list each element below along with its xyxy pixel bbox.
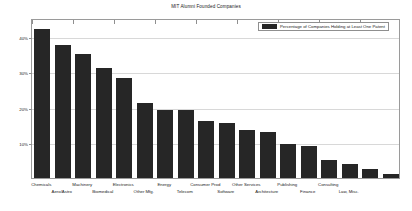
x-axis-label: Law, Misc. bbox=[339, 189, 359, 194]
bar bbox=[75, 54, 91, 178]
bar bbox=[55, 45, 71, 178]
x-axis-label: Chemicals bbox=[31, 182, 51, 187]
chart-container: MIT Alumni Founded Companies 10%20%30%40… bbox=[0, 0, 412, 211]
bar bbox=[321, 160, 337, 178]
y-axis-label: 20% bbox=[19, 106, 28, 111]
x-axis-label: Consulting bbox=[318, 182, 338, 187]
legend-swatch-icon bbox=[262, 24, 277, 29]
y-axis-label: 30% bbox=[19, 71, 28, 76]
bar bbox=[280, 144, 296, 178]
x-axis-label: Software bbox=[217, 189, 234, 194]
bar bbox=[301, 146, 317, 178]
chart-legend: Percentage of Companies Holding at Least… bbox=[258, 22, 389, 31]
plot-area: 10%20%30%40% bbox=[31, 19, 400, 179]
bar bbox=[157, 110, 173, 178]
x-axis-label: Electronics bbox=[113, 182, 134, 187]
bar bbox=[239, 130, 255, 178]
x-axis-label: Other Mfg. bbox=[134, 189, 154, 194]
bar bbox=[198, 121, 214, 178]
y-axis-label: 10% bbox=[19, 142, 28, 147]
x-axis-label: Biomedical bbox=[92, 189, 113, 194]
x-axis-label: Telecom bbox=[177, 189, 193, 194]
bar bbox=[362, 169, 378, 178]
bar bbox=[219, 123, 235, 178]
chart-title: MIT Alumni Founded Companies bbox=[0, 4, 412, 9]
bars-group bbox=[32, 20, 399, 178]
bar bbox=[383, 174, 399, 178]
bar bbox=[116, 78, 132, 178]
bar bbox=[342, 164, 358, 178]
bar bbox=[137, 103, 153, 178]
x-axis-label: Other Services bbox=[232, 182, 260, 187]
x-axis-label: Publishing bbox=[277, 182, 297, 187]
x-axis-label: Architecture bbox=[255, 189, 278, 194]
bar bbox=[34, 29, 50, 178]
bar bbox=[178, 110, 194, 178]
y-axis-label: 40% bbox=[19, 35, 28, 40]
x-axis-label: Consumer Prod bbox=[190, 182, 220, 187]
legend-label: Percentage of Companies Holding at Least… bbox=[280, 24, 385, 29]
x-axis-label: Finance bbox=[300, 189, 315, 194]
x-axis-label: Aero/Astro bbox=[52, 189, 72, 194]
x-axis-label: Machinery bbox=[72, 182, 92, 187]
x-axis-label: Energy bbox=[157, 182, 171, 187]
bar bbox=[260, 132, 276, 178]
bar bbox=[96, 68, 112, 178]
x-axis-labels: ChemicalsAero/AstroMachineryBiomedicalEl… bbox=[31, 179, 400, 211]
